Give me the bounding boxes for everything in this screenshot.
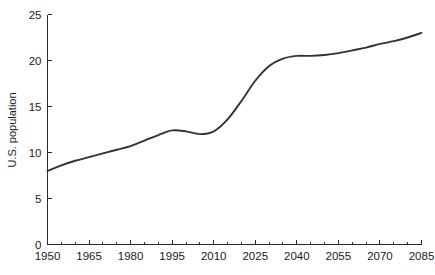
x-tick-label: 2010	[201, 250, 227, 262]
y-axis-tick-labels: 0510152025	[29, 9, 42, 251]
x-tick-label: 2025	[242, 250, 268, 262]
x-tick-label: 1995	[159, 250, 185, 262]
x-axis-ticks	[48, 240, 422, 245]
x-tick-label: 2085	[409, 250, 435, 262]
y-axis-title: U.S. population	[6, 92, 18, 167]
x-tick-label: 2040	[284, 250, 310, 262]
x-tick-label: 1980	[118, 250, 144, 262]
chart-container: 0510152025 19501965198019952010202520402…	[0, 0, 435, 275]
data-series-group	[48, 33, 422, 171]
axis-lines	[48, 15, 422, 245]
population-line	[48, 33, 422, 171]
plot-axes	[48, 15, 422, 245]
y-tick-label: 20	[29, 55, 42, 67]
x-tick-label: 1950	[35, 250, 61, 262]
y-tick-label: 10	[29, 147, 42, 159]
x-tick-label: 2055	[326, 250, 352, 262]
x-axis-tick-labels: 1950196519801995201020252040205520702085	[35, 250, 435, 262]
x-tick-label: 2070	[367, 250, 393, 262]
y-tick-label: 5	[35, 193, 41, 205]
y-tick-label: 25	[29, 9, 42, 21]
x-tick-label: 1965	[76, 250, 102, 262]
line-chart: 0510152025 19501965198019952010202520402…	[0, 0, 435, 275]
y-tick-label: 15	[29, 101, 42, 113]
y-axis-ticks	[48, 15, 53, 245]
